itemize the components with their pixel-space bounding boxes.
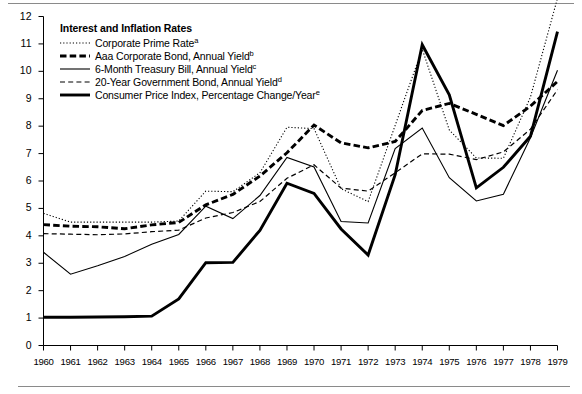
chart-figure: Interest and Inflation Rates Corporate P… [0,0,582,394]
y-axis-tick-label: 7 [10,147,32,159]
x-axis-tick-label: 1966 [191,356,221,367]
x-axis-tick-label: 1974 [407,356,437,367]
x-axis-tick-label: 1977 [488,356,518,367]
legend-item-label: Consumer Price Index, Percentage Change/… [95,89,320,101]
y-axis-tick-label: 0 [10,339,32,351]
x-axis-tick-label: 1973 [380,356,410,367]
x-axis-tick-label: 1967 [218,356,248,367]
x-axis-tick-label: 1979 [543,356,573,367]
x-axis-tick-label: 1970 [299,356,329,367]
legend-swatch-icon [60,89,90,101]
x-axis-tick-label: 1963 [110,356,140,367]
x-axis-tick-label: 1965 [164,356,194,367]
legend-footnote-marker: d [278,74,282,83]
legend-item-3: 20-Year Government Bond, Annual Yieldd [60,75,390,88]
legend-item-1: Aaa Corporate Bond, Annual Yieldb [60,49,390,62]
x-axis-tick-label: 1968 [245,356,275,367]
legend-item-0: Corporate Prime Ratea [60,36,390,49]
x-axis-tick-label: 1976 [461,356,491,367]
y-axis-tick-label: 10 [10,64,32,76]
y-axis-tick-label: 12 [10,10,32,22]
y-axis-tick-label: 8 [10,119,32,131]
legend-item-4: Consumer Price Index, Percentage Change/… [60,88,390,101]
legend-swatch-icon [60,63,90,75]
x-axis-tick-label: 1978 [515,356,545,367]
y-axis-tick-label: 3 [10,256,32,268]
legend-item-label: 6-Month Treasury Bill, Annual Yieldc [95,63,256,75]
x-axis-tick-label: 1962 [83,356,113,367]
legend-item-label: 20-Year Government Bond, Annual Yieldd [95,76,282,88]
y-axis-tick-label: 2 [10,284,32,296]
legend-title: Interest and Inflation Rates [60,22,390,34]
legend-swatch-icon [60,37,90,49]
y-axis-tick-label: 4 [10,229,32,241]
y-axis-tick-label: 5 [10,201,32,213]
x-axis-tick-label: 1972 [353,356,383,367]
legend-footnote-marker: c [253,61,257,70]
x-axis-tick-label: 1969 [272,356,302,367]
x-axis-tick-label: 1960 [29,356,59,367]
legend-item-label: Corporate Prime Ratea [95,37,198,49]
legend-item-label: Aaa Corporate Bond, Annual Yieldb [95,50,254,62]
chart-legend: Interest and Inflation Rates Corporate P… [60,22,390,101]
y-axis-tick-label: 11 [10,37,32,49]
legend-item-2: 6-Month Treasury Bill, Annual Yieldc [60,62,390,75]
x-axis-tick-label: 1961 [56,356,86,367]
x-axis-tick-label: 1975 [434,356,464,367]
series-line-1 [44,81,558,228]
y-axis-tick-label: 9 [10,92,32,104]
y-axis-tick-label: 6 [10,174,32,186]
legend-swatch-icon [60,76,90,88]
legend-footnote-marker: a [194,35,198,44]
legend-footnote-marker: b [250,48,254,57]
y-axis-tick-label: 1 [10,311,32,323]
x-axis-tick-label: 1964 [137,356,167,367]
legend-swatch-icon [60,50,90,62]
legend-footnote-marker: e [316,87,320,96]
x-axis-tick-label: 1971 [326,356,356,367]
